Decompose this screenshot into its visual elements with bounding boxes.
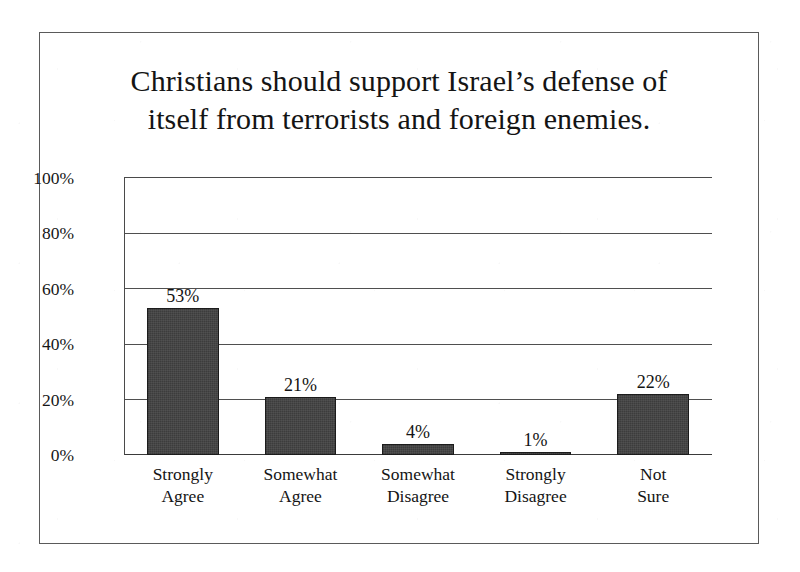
bar-strongly-disagree[interactable]: 1% — [500, 452, 572, 455]
x-label-word: Agree — [242, 485, 360, 507]
bar-slot-strongly-agree: 53% — [124, 177, 242, 455]
chart-page: Christians should support Israel’s defen… — [0, 0, 800, 572]
bar-slot-somewhat-disagree: 4% — [359, 177, 477, 455]
x-label-word: Not — [594, 463, 712, 485]
bar-somewhat-agree[interactable]: 21% — [265, 397, 337, 455]
bar-somewhat-disagree[interactable]: 4% — [382, 444, 454, 455]
y-tick-label-40: 40% — [4, 336, 74, 354]
chart-title-line-1: Christians should support Israel’s defen… — [39, 62, 759, 100]
x-label-somewhat-disagree: Somewhat Disagree — [359, 463, 477, 507]
x-label-word: Disagree — [359, 485, 477, 507]
bar-slot-somewhat-agree: 21% — [242, 177, 360, 455]
x-label-not-sure: Not Sure — [594, 463, 712, 507]
bar-strongly-agree[interactable]: 53% — [147, 308, 219, 455]
chart-title-line-2: itself from terrorists and foreign enemi… — [39, 100, 759, 138]
y-tick-label-80: 80% — [4, 225, 74, 243]
x-label-word: Somewhat — [242, 463, 360, 485]
x-label-word: Agree — [124, 485, 242, 507]
bar-not-sure[interactable]: 22% — [617, 394, 689, 455]
bar-value-label-strongly-disagree: 1% — [524, 431, 548, 449]
bar-value-label-somewhat-disagree: 4% — [406, 423, 430, 441]
bar-value-label-not-sure: 22% — [637, 373, 670, 391]
bar-slot-strongly-disagree: 1% — [477, 177, 595, 455]
x-axis-labels: Strongly Agree Somewhat Agree Somewhat D… — [124, 463, 712, 507]
y-tick-label-100: 100% — [4, 170, 74, 188]
x-label-word: Strongly — [477, 463, 595, 485]
x-label-word: Sure — [594, 485, 712, 507]
y-tick-label-60: 60% — [4, 281, 74, 299]
plot-area-wrapper: 53% 21% 4% 1% 22% — [124, 177, 712, 455]
x-label-strongly-disagree: Strongly Disagree — [477, 463, 595, 507]
y-tick-label-20: 20% — [4, 392, 74, 410]
bars-layer: 53% 21% 4% 1% 22% — [124, 177, 712, 455]
bar-value-label-strongly-agree: 53% — [166, 287, 199, 305]
chart-title: Christians should support Israel’s defen… — [39, 62, 759, 138]
x-label-strongly-agree: Strongly Agree — [124, 463, 242, 507]
x-label-word: Somewhat — [359, 463, 477, 485]
bar-slot-not-sure: 22% — [594, 177, 712, 455]
y-tick-label-0: 0% — [4, 447, 74, 465]
x-label-word: Disagree — [477, 485, 595, 507]
bar-value-label-somewhat-agree: 21% — [284, 376, 317, 394]
x-label-somewhat-agree: Somewhat Agree — [242, 463, 360, 507]
x-label-word: Strongly — [124, 463, 242, 485]
